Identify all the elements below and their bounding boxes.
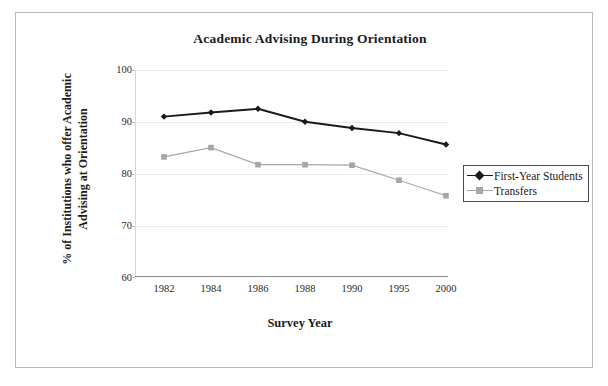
y-tick-label-80: 80 (98, 168, 132, 179)
y-tick-label-70: 70 (98, 220, 132, 231)
data-point-1990 (349, 125, 355, 131)
data-point-1988 (302, 119, 308, 125)
chart-screenshot: Academic Advising During Orientation % o… (0, 0, 608, 386)
x-tick-label-1984: 1984 (188, 283, 234, 294)
data-point-1982 (161, 154, 167, 160)
x-tick-label-1995: 1995 (376, 283, 422, 294)
x-tick-label-1986: 1986 (235, 283, 281, 294)
diamond-marker-icon (467, 170, 493, 182)
x-tick-label-1990: 1990 (329, 283, 375, 294)
x-tick-label-1982: 1982 (141, 283, 187, 294)
data-point-1990 (349, 162, 355, 168)
x-tick-label-2000: 2000 (423, 283, 469, 294)
legend-item-transfers[interactable]: Transfers (467, 183, 583, 198)
data-point-1995 (396, 130, 402, 136)
data-point-1988 (302, 162, 308, 168)
y-tick-label-60: 60 (98, 272, 132, 283)
legend-item-first-year-students[interactable]: First-Year Students (467, 168, 583, 183)
series-line (164, 148, 446, 196)
y-axis-title-line-2: Advising at Orientation (75, 73, 91, 264)
series-line (164, 109, 446, 145)
data-point-1986 (255, 106, 261, 112)
y-tick-label-100: 100 (98, 64, 132, 75)
series-plot (135, 70, 448, 277)
series-first-year-students (161, 106, 449, 148)
y-axis-title: % of Institutions who offer Academic Adv… (52, 58, 98, 280)
series-transfers (161, 145, 449, 199)
data-point-1995 (396, 177, 402, 183)
data-point-1984 (208, 145, 214, 151)
data-point-1984 (208, 109, 214, 115)
x-tick-label-1988: 1988 (282, 283, 328, 294)
data-point-1986 (255, 162, 261, 168)
square-marker-icon (467, 185, 493, 197)
x-axis-title: Survey Year (185, 316, 415, 331)
legend: First-Year Students Transfers (463, 165, 589, 202)
data-point-2000 (443, 193, 449, 199)
y-tick-label-90: 90 (98, 116, 132, 127)
chart-title: Academic Advising During Orientation (100, 31, 520, 47)
y-tick-mark-60 (131, 277, 135, 278)
plot-area (135, 70, 448, 277)
legend-label-transfers: Transfers (493, 185, 537, 197)
data-point-1982 (161, 113, 167, 119)
y-axis-title-line-1: % of Institutions who offer Academic (59, 73, 75, 264)
legend-label-first-year-students: First-Year Students (493, 170, 583, 182)
